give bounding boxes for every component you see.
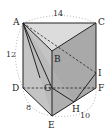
label-H: H (72, 104, 80, 114)
arc-left (16, 23, 24, 88)
label-I: I (98, 68, 102, 78)
dimension-AD: 12 (6, 50, 16, 59)
label-F: F (98, 83, 104, 93)
label-A: A (12, 17, 20, 27)
label-C: C (98, 17, 105, 27)
label-E: E (48, 120, 55, 130)
label-D: D (12, 83, 19, 93)
prism-diagram: A C B I D G F H E 14 12 8 10 (0, 0, 110, 138)
dimension-AC: 14 (53, 9, 63, 18)
label-G: G (44, 83, 51, 93)
dimension-EF: 10 (80, 111, 90, 120)
label-B: B (54, 54, 61, 64)
dimension-DE: 8 (26, 103, 31, 112)
